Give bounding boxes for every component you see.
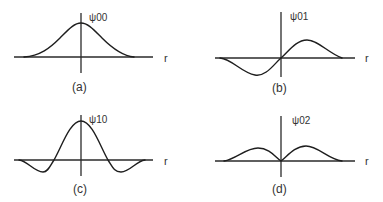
panel-d xyxy=(215,116,355,177)
psi02-label: ψ02 xyxy=(292,116,310,126)
caption-b: (b) xyxy=(272,82,287,94)
psi00-curve xyxy=(24,23,134,57)
r-axis-label: r xyxy=(164,53,168,64)
r-axis-label: r xyxy=(365,53,369,64)
psi01-label: ψ01 xyxy=(290,12,308,22)
psi10-label: ψ10 xyxy=(89,115,107,125)
wavefunction-diagram xyxy=(0,0,383,202)
r-axis-label: r xyxy=(365,156,369,167)
psi02-curve xyxy=(224,146,342,161)
psi00-label: ψ00 xyxy=(89,13,107,23)
caption-a: (a) xyxy=(72,81,87,93)
caption-d: (d) xyxy=(272,183,287,195)
panel-b xyxy=(215,12,355,77)
caption-c: (c) xyxy=(73,183,87,195)
psi10-curve xyxy=(19,121,145,172)
r-axis-label: r xyxy=(164,156,168,167)
panel-c xyxy=(14,115,153,176)
panel-a xyxy=(14,13,153,73)
